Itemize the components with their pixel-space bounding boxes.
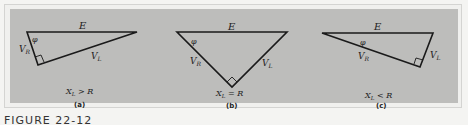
hypotenuse-label-b: E <box>227 21 236 32</box>
condition-label-c: XL < R <box>364 91 392 101</box>
resistive-voltage-label-b: VR <box>190 56 202 67</box>
panel-a: E φ VR VL XL > R (a) <box>19 20 137 109</box>
phasor-triangles-diagram: E φ VR VL XL > R (a) E φ VR VL XL = R (b… <box>0 0 468 125</box>
hypotenuse-label-a: E <box>78 20 87 31</box>
voltage-triangle-c <box>322 33 433 67</box>
panel-caption-a: (a) <box>74 101 85 109</box>
angle-label-b: φ <box>191 37 197 46</box>
right-angle-marker-b <box>227 77 237 82</box>
resistive-voltage-label-c: VR <box>358 51 370 62</box>
panel-b: E φ VR VL XL = R (b) <box>177 21 287 110</box>
panel-caption-c: (c) <box>376 102 387 110</box>
angle-label-a: φ <box>32 35 38 44</box>
panel-c: E φ VR VL XL < R (c) <box>322 21 441 110</box>
resistive-voltage-label-a: VR <box>19 44 31 55</box>
figure-caption: FIGURE 22-12 <box>4 115 92 125</box>
panel-caption-b: (b) <box>226 102 237 110</box>
condition-label-a: XL > R <box>65 87 93 97</box>
inductive-voltage-label-a: VL <box>91 51 102 62</box>
condition-label-b: XL = R <box>215 89 243 99</box>
hypotenuse-label-c: E <box>373 21 382 32</box>
inductive-voltage-label-c: VL <box>430 50 441 61</box>
inductive-voltage-label-b: VL <box>262 58 273 69</box>
angle-label-c: φ <box>360 38 366 47</box>
